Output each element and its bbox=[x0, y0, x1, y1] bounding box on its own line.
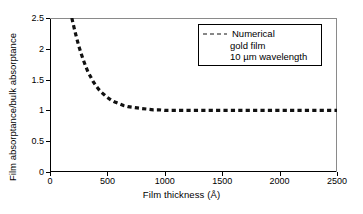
legend-label-wavelength: 10 µm wavelength bbox=[230, 51, 317, 63]
legend-label-series: Numerical bbox=[232, 28, 275, 40]
x-tick-label: 2000 bbox=[270, 177, 290, 186]
legend-box: Numerical gold film 10 µm wavelength bbox=[198, 24, 322, 66]
y-tick-label: 0 bbox=[39, 168, 44, 177]
y-tick-label: 1.5 bbox=[31, 75, 44, 84]
x-tick-label: 0 bbox=[47, 177, 52, 186]
legend-label-material: gold film bbox=[230, 40, 317, 52]
plot-area: 00.511.522.5 05001000150020002500 Numeri… bbox=[50, 18, 337, 172]
x-tick-label: 500 bbox=[100, 177, 115, 186]
y-tick-label: 0.5 bbox=[31, 137, 44, 146]
x-axis-title: Film thickness (Å) bbox=[0, 189, 363, 200]
y-tick-label: 2 bbox=[39, 44, 44, 53]
y-tick-label: 2.5 bbox=[31, 14, 44, 23]
x-tick-label: 1500 bbox=[212, 177, 232, 186]
x-tick-label: 1000 bbox=[155, 177, 175, 186]
x-tick-label: 2500 bbox=[327, 177, 347, 186]
y-axis-title: Film absorptance/bulk absorptance bbox=[7, 32, 18, 182]
chart-figure: 00.511.522.5 05001000150020002500 Numeri… bbox=[0, 0, 363, 214]
legend-dash-sample bbox=[203, 33, 227, 35]
y-tick-label: 1 bbox=[39, 106, 44, 115]
